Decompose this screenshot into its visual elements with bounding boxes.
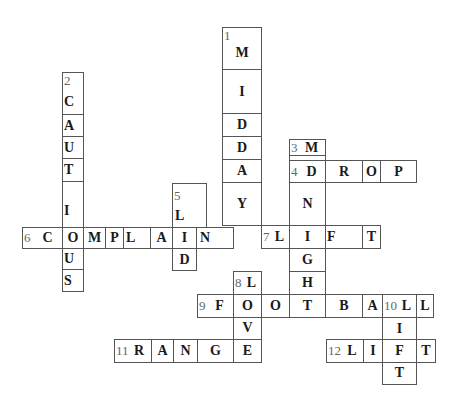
- cell-1-down-5[interactable]: A: [222, 159, 262, 183]
- cell-2-down-8[interactable]: S: [62, 269, 84, 292]
- cell-letter: I: [223, 84, 261, 100]
- cell-letter: L: [341, 343, 363, 359]
- cell-4-across-4[interactable]: P: [380, 160, 417, 183]
- clue-number: 6: [24, 230, 31, 246]
- cell-7-across-4[interactable]: T: [362, 225, 381, 249]
- cell-7-across-1[interactable]: 7 L: [261, 225, 290, 249]
- cell-5-down-1[interactable]: 5 L: [172, 183, 207, 228]
- cell-letter: I: [290, 229, 325, 245]
- cell-letter: H: [290, 275, 325, 291]
- cell-1-down-4[interactable]: D: [222, 136, 262, 160]
- cell-letter: O: [234, 298, 261, 314]
- cell-11-across-4[interactable]: G: [197, 339, 234, 363]
- cell-9-across-2[interactable]: O: [233, 294, 262, 318]
- cell-letter: L: [173, 208, 206, 224]
- cell-9-across-6[interactable]: A: [362, 294, 383, 318]
- cell-1-down-1[interactable]: 1 M: [222, 27, 262, 70]
- clue-number: 7: [263, 229, 270, 245]
- cell-3-down-4[interactable]: N: [289, 182, 326, 226]
- cell-letter: U: [63, 140, 83, 156]
- cell-9-across-4[interactable]: T: [289, 294, 326, 318]
- cell-letter: D: [223, 117, 261, 133]
- cell-4-across-3[interactable]: O: [362, 160, 381, 183]
- cell-12-across-2[interactable]: I: [363, 339, 383, 363]
- cell-2-down-1[interactable]: 2 C: [62, 72, 84, 115]
- cell-letter: A: [152, 343, 173, 359]
- cell-letter: N: [197, 230, 233, 246]
- cell-letter: S: [63, 273, 83, 289]
- cell-9-across-3[interactable]: O: [261, 294, 290, 318]
- cell-letter: O: [363, 164, 380, 180]
- cell-12-across-4[interactable]: T: [416, 339, 436, 363]
- cell-11-across-3[interactable]: N: [173, 339, 198, 363]
- cell-8-down-4[interactable]: E: [233, 339, 262, 363]
- cell-10-down-4[interactable]: T: [382, 361, 417, 385]
- cell-3-down-4-across-1[interactable]: 4 D: [289, 160, 326, 183]
- cell-4-across-2[interactable]: R: [325, 160, 363, 183]
- cell-letter: C: [33, 230, 62, 246]
- cell-6-across-2[interactable]: O: [62, 227, 84, 249]
- cell-9-across-7[interactable]: 10 L: [382, 294, 417, 318]
- cell-letter: G: [198, 343, 233, 359]
- clue-number: 10: [384, 298, 397, 314]
- cell-12-across-1[interactable]: 12 L: [326, 339, 364, 363]
- cell-1-down-3[interactable]: D: [222, 113, 262, 137]
- cell-letter: I: [364, 343, 382, 359]
- cell-letter: D: [173, 252, 196, 268]
- cell-letter: A: [223, 163, 261, 179]
- cell-6-across-8[interactable]: N: [196, 227, 234, 249]
- cell-letter: F: [206, 298, 233, 314]
- cell-6-across-1[interactable]: 6 C: [22, 227, 63, 249]
- cell-2-down-7[interactable]: U: [62, 247, 84, 270]
- clue-number: 4: [291, 164, 298, 180]
- cell-letter: L: [242, 275, 261, 291]
- cell-3-down-7[interactable]: H: [289, 271, 326, 295]
- cell-6-across-3[interactable]: M: [83, 227, 106, 249]
- cell-1-down-2[interactable]: I: [222, 69, 262, 114]
- cell-letter: P: [381, 164, 416, 180]
- cell-letter: I: [63, 203, 83, 219]
- cell-8-down-1[interactable]: 8 L: [233, 271, 262, 295]
- cell-letter: F: [383, 343, 416, 359]
- cell-letter: B: [326, 298, 362, 314]
- cell-12-across-3[interactable]: F: [382, 339, 417, 363]
- cell-letter: D: [298, 164, 325, 180]
- cell-letter: O: [63, 230, 83, 246]
- cell-5-down-3[interactable]: D: [172, 248, 197, 271]
- cell-1-down-6[interactable]: Y: [222, 182, 262, 226]
- cell-letter: D: [223, 140, 261, 156]
- cell-2-down-5[interactable]: I: [62, 181, 84, 228]
- cell-11-across-1[interactable]: 11 R: [114, 339, 152, 363]
- cell-2-down-2[interactable]: A: [62, 114, 84, 137]
- cell-letter: G: [290, 252, 325, 268]
- clue-number: 5: [174, 188, 181, 204]
- cell-letter: M: [84, 230, 105, 246]
- cell-letter: M: [223, 45, 261, 61]
- cell-9-across-1[interactable]: 9 F: [197, 294, 234, 318]
- clue-number: 1: [224, 28, 231, 44]
- cell-letter: A: [151, 230, 172, 246]
- cell-6-across-5[interactable]: L: [123, 227, 151, 249]
- cell-3-down-6[interactable]: G: [289, 248, 326, 272]
- clue-number: 12: [328, 343, 341, 359]
- cell-6-across-7[interactable]: I: [172, 227, 197, 249]
- cell-letter: I: [173, 230, 196, 246]
- cell-letter: O: [262, 298, 289, 314]
- cell-6-across-6[interactable]: A: [150, 227, 173, 249]
- cell-letter: R: [326, 164, 362, 180]
- cell-2-down-3[interactable]: U: [62, 136, 84, 159]
- cell-2-down-4[interactable]: T: [62, 158, 84, 182]
- cell-9-across-5[interactable]: B: [325, 294, 363, 318]
- cell-7-across-2[interactable]: I: [289, 225, 326, 249]
- cell-3-down-2b[interactable]: [289, 139, 326, 162]
- cell-8-down-3[interactable]: V: [233, 316, 262, 340]
- cell-9-across-8[interactable]: L: [416, 294, 434, 318]
- cell-letter: T: [63, 162, 83, 178]
- clue-number: 9: [199, 298, 206, 314]
- cell-11-across-2[interactable]: A: [151, 339, 174, 363]
- cell-7-across-3[interactable]: F: [325, 225, 363, 249]
- cell-10-down-2[interactable]: I: [382, 317, 417, 340]
- cell-letter: A: [363, 298, 382, 314]
- cell-letter: P: [106, 230, 123, 246]
- cell-6-across-4[interactable]: P: [105, 227, 124, 249]
